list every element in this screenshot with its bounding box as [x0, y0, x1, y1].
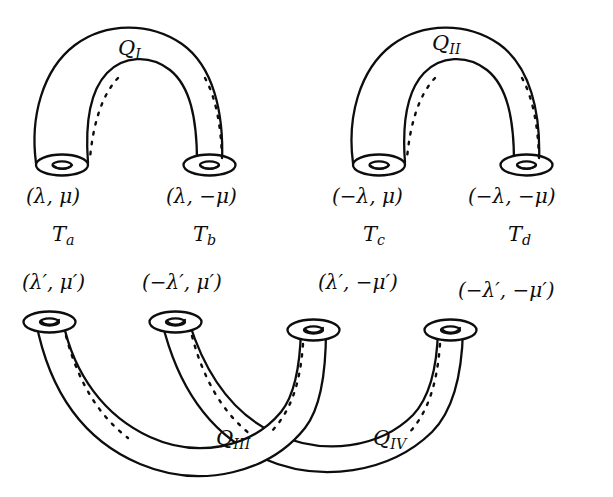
tube-diagram-canvas: .ink { fill:none; stroke:#0d0d0d; stroke… [0, 0, 613, 497]
coord-label-c-prime: (λ′, −μ′) [318, 272, 398, 292]
label-Q1-sub: I [135, 46, 141, 62]
label-Q2: QII [432, 33, 461, 56]
label-Tb: Tb [193, 224, 216, 247]
coord-label-b-prime: (−λ′, μ′) [142, 272, 222, 292]
label-Q3-sub: III [233, 436, 250, 452]
coord-label-a-prime: (λ′, μ′) [22, 272, 85, 292]
tube-opening-a [36, 155, 88, 176]
label-Q2-base: Q [432, 31, 449, 55]
label-Q4: QIV [373, 428, 406, 451]
label-Td-sub: d [522, 232, 531, 248]
label-Ta-base: T [52, 222, 66, 246]
tube-opening-b [184, 155, 236, 176]
label-Tc-sub: c [377, 232, 385, 248]
label-Q2-sub: II [449, 41, 461, 57]
tube-opening-c [353, 155, 405, 176]
tube-opening-d-prime [425, 320, 477, 341]
label-Q1: QI [118, 38, 141, 61]
label-Tb-base: T [193, 222, 207, 246]
label-Q4-sub: IV [390, 436, 406, 452]
tube-opening-a-prime [24, 312, 76, 333]
label-Tb-sub: b [207, 232, 216, 248]
label-Tc-base: T [363, 222, 377, 246]
coord-label-d-prime: (−λ′, −μ′) [458, 280, 555, 300]
label-Td-base: T [508, 222, 522, 246]
tube-opening-b-prime [150, 312, 202, 333]
label-Ta-sub: a [66, 232, 75, 248]
tube-opening-c-prime [288, 320, 340, 341]
tube-opening-d [501, 155, 553, 176]
coord-label-b: (λ, −μ) [166, 186, 237, 206]
label-Q4-base: Q [373, 426, 390, 450]
coord-label-a: (λ, μ) [26, 186, 80, 206]
label-Ta: Ta [52, 224, 75, 247]
label-Td: Td [508, 224, 531, 247]
label-Q1-base: Q [118, 36, 135, 60]
label-Tc: Tc [363, 224, 385, 247]
label-Q3: QIII [216, 428, 251, 451]
topology-figure: .ink { fill:none; stroke:#0d0d0d; stroke… [0, 0, 613, 497]
coord-label-c: (−λ, μ) [332, 186, 403, 206]
coord-label-d: (−λ, −μ) [468, 186, 556, 206]
label-Q3-base: Q [216, 426, 233, 450]
